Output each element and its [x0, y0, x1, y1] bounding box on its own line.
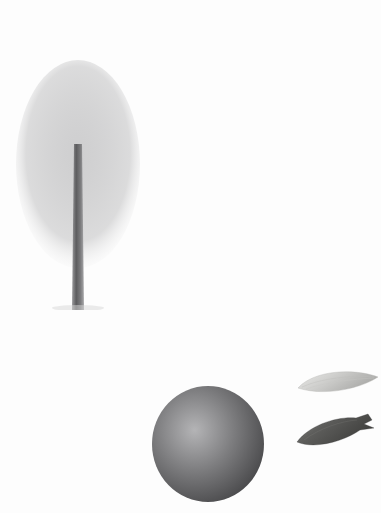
- cone-body: [152, 386, 264, 502]
- scale-specimen-illustration: [294, 412, 381, 452]
- cone-illustration: [146, 378, 296, 513]
- tree-trunk: [72, 144, 84, 310]
- seed-specimen-illustration: [296, 368, 381, 402]
- illustration-page: [0, 0, 381, 513]
- leafy-branchlet-illustration: [146, 0, 381, 262]
- monkey-puzzle-tree-illustration: [8, 52, 148, 310]
